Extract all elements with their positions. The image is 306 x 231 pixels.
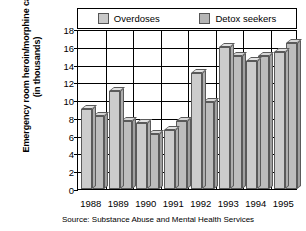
source-note: Source: Substance Abuse and Mental Healt… xyxy=(62,215,254,224)
y-tick-mark xyxy=(74,101,78,102)
y-tick-mark xyxy=(74,119,78,120)
bar-face xyxy=(191,73,202,189)
bar-side xyxy=(159,131,163,189)
bar-side xyxy=(175,127,179,189)
bar-face xyxy=(164,130,175,189)
bar-face xyxy=(136,123,147,189)
y-tick-mark xyxy=(74,137,78,138)
y-tick-mark xyxy=(74,172,78,173)
y-tick-label: 16 xyxy=(63,42,74,53)
legend-label-overdoses: Overdoses xyxy=(114,13,160,24)
bar-overdoses-1989 xyxy=(109,91,120,189)
legend-swatch-detox-seekers xyxy=(199,13,210,24)
bar-overdoses-1991 xyxy=(164,130,175,189)
bar-face xyxy=(219,47,230,189)
bar-overdoses-1993 xyxy=(219,47,230,189)
y-tick-mark xyxy=(74,66,78,67)
bar-overdoses-1990 xyxy=(136,123,147,189)
bar-overdoses-1995 xyxy=(274,52,285,189)
y-tick-mark xyxy=(74,30,78,31)
x-tick-label-1990: 1990 xyxy=(135,198,156,209)
bar-side xyxy=(132,118,136,189)
y-tick-label: 10 xyxy=(63,96,74,107)
bar-side xyxy=(187,118,191,189)
chart-figure: Emergency room heroin/morphine cases (in… xyxy=(0,0,306,231)
y-tick-mark xyxy=(74,190,78,191)
legend-item-overdoses: Overdoses xyxy=(98,13,160,24)
bar-side xyxy=(257,58,261,189)
x-tick-label-1992: 1992 xyxy=(190,198,211,209)
bar-overdoses-1992 xyxy=(191,73,202,189)
y-tick-label: 14 xyxy=(63,60,74,71)
bar-side xyxy=(92,106,96,189)
y-tick-mark xyxy=(74,83,78,84)
bar-side xyxy=(202,70,206,189)
x-axis-labels: 19881989199019911992199319941995 xyxy=(77,198,297,212)
bar-face xyxy=(274,52,285,189)
bar-side xyxy=(297,40,301,189)
bar-side xyxy=(269,52,273,189)
bar-side xyxy=(230,43,234,189)
x-tick-label-1993: 1993 xyxy=(218,198,239,209)
bar-overdoses-1994 xyxy=(246,61,257,189)
y-tick-mark xyxy=(74,48,78,49)
plot-outer: Overdoses Detox seekers 024681012141618 xyxy=(77,8,299,194)
bar-face xyxy=(246,61,257,189)
chart-legend: Overdoses Detox seekers xyxy=(77,8,297,29)
bar-side xyxy=(120,88,124,189)
y-tick-mark xyxy=(74,154,78,155)
legend-swatch-overdoses xyxy=(98,13,109,24)
x-tick-label-1988: 1988 xyxy=(80,198,101,209)
bar-overdoses-1988 xyxy=(81,109,92,189)
x-tick-label-1991: 1991 xyxy=(163,198,184,209)
x-tick-label-1989: 1989 xyxy=(108,198,129,209)
bar-side xyxy=(285,49,289,189)
plot-area: 024681012141618 xyxy=(77,30,297,190)
plot-inner xyxy=(78,30,297,189)
legend-label-detox-seekers: Detox seekers xyxy=(215,13,276,24)
y-tick-label: 12 xyxy=(63,78,74,89)
bar-side xyxy=(214,99,218,189)
bar-face xyxy=(81,109,92,189)
legend-item-detox-seekers: Detox seekers xyxy=(199,13,276,24)
x-tick-label-1995: 1995 xyxy=(273,198,294,209)
x-tick-label-1994: 1994 xyxy=(245,198,266,209)
y-axis-title: Emergency room heroin/morphine cases (in… xyxy=(21,0,43,153)
bar-side xyxy=(147,120,151,189)
y-tick-label: 18 xyxy=(63,25,74,36)
bar-face xyxy=(109,91,120,189)
bar-side xyxy=(242,52,246,189)
bar-side xyxy=(104,113,108,189)
